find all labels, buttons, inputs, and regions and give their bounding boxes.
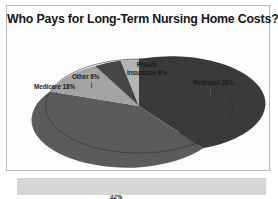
pie-label-private-insurance-line1: Private: [119, 61, 175, 69]
chart-title: Who Pays for Long-Term Nursing Home Cost…: [7, 12, 271, 26]
pie-label-private-insurance: Private Insurance 6%: [119, 61, 175, 78]
leader-line-medicare: [56, 92, 57, 99]
bottom-gray-bar: [17, 178, 266, 195]
pie-label-medicare: Medicare 18%: [34, 83, 75, 91]
leader-line-medicaid: [210, 88, 211, 96]
pie-label-medicaid: Medicaid 38%: [193, 79, 234, 87]
pie-chart: Medicaid 38% Private Insurance 6% Other …: [7, 30, 271, 172]
pie-label-other: Other 6%: [72, 73, 99, 81]
screenshot-root: Who Pays for Long-Term Nursing Home Cost…: [0, 0, 278, 199]
chart-card: Who Pays for Long-Term Nursing Home Cost…: [6, 5, 270, 171]
pie-chart-svg: [7, 30, 271, 172]
pie-label-private-insurance-line2: Insurance 6%: [119, 69, 175, 77]
leader-line-other: [91, 82, 92, 88]
